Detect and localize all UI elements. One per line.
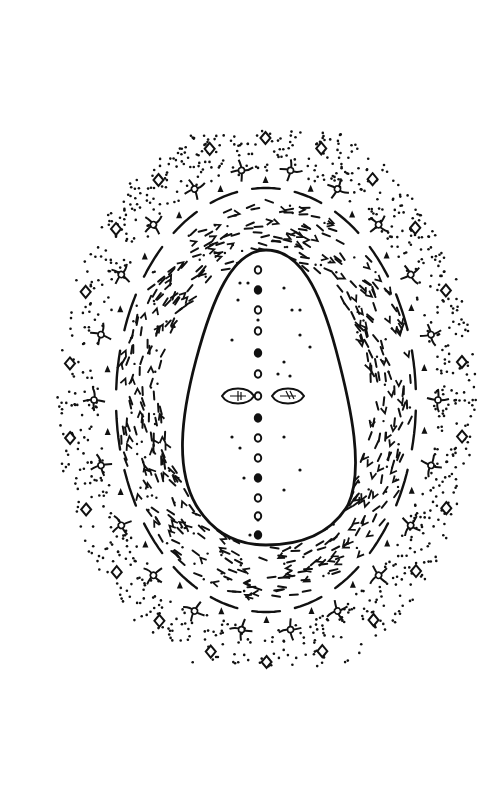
diamond-icon xyxy=(441,284,451,296)
diamond-icon xyxy=(368,173,378,185)
star-cross-icon xyxy=(417,321,445,350)
arrowhead-icon xyxy=(142,252,148,259)
arrowhead-icon xyxy=(409,487,415,494)
star-cross-icon xyxy=(83,388,105,411)
diamond-icon xyxy=(153,174,163,186)
arrowhead-icon xyxy=(309,607,315,614)
star-cross-icon xyxy=(362,560,394,592)
diamond-icon xyxy=(441,502,451,514)
arrowhead-icon xyxy=(117,305,123,312)
diamond-icon xyxy=(369,614,379,626)
diamond-icon xyxy=(112,566,122,578)
arrowhead-icon xyxy=(176,211,182,218)
star-cross-icon xyxy=(87,451,115,479)
leaf-eye-left xyxy=(222,389,254,404)
arrowhead-icon xyxy=(263,176,269,183)
arrowhead-icon xyxy=(408,304,414,311)
arrowhead-icon xyxy=(308,185,314,192)
arrowhead-icon xyxy=(177,581,183,588)
diamond-icon xyxy=(154,615,164,627)
diamond-icon xyxy=(411,565,421,577)
arrowhead-icon xyxy=(421,427,427,434)
inner-seed-outline xyxy=(182,250,355,545)
star-cross-icon xyxy=(228,617,254,642)
diamond-icon xyxy=(457,431,467,443)
star-cross-icon xyxy=(180,174,210,204)
arrowhead-icon xyxy=(350,581,356,588)
arrowhead-icon xyxy=(218,607,224,614)
star-cross-icon xyxy=(137,559,169,591)
star-cross-icon xyxy=(179,596,209,625)
arrowhead-icon xyxy=(217,185,223,192)
artwork-canvas xyxy=(0,0,492,786)
arrowhead-icon xyxy=(105,365,111,372)
star-cross-icon xyxy=(278,158,304,183)
diamond-icon xyxy=(81,286,91,298)
arrowhead-icon xyxy=(384,251,390,258)
diamond-icon xyxy=(111,223,121,235)
star-cross-icon xyxy=(229,157,255,183)
diamond-icon xyxy=(81,504,91,516)
star-cross-icon xyxy=(277,617,303,642)
arrowhead-icon xyxy=(105,428,111,435)
leaf-eye-right xyxy=(272,389,304,404)
diamond-icon xyxy=(262,656,272,668)
star-cross-icon xyxy=(138,208,170,240)
arrowhead-icon xyxy=(384,540,390,547)
arrowhead-icon xyxy=(118,488,124,495)
star-cross-icon xyxy=(322,596,352,626)
diamond-icon xyxy=(410,222,420,234)
arrowhead-icon xyxy=(421,364,427,371)
star-cross-icon xyxy=(395,259,426,290)
diamond-icon xyxy=(317,645,327,657)
arrowhead-icon xyxy=(263,616,269,623)
star-cross-icon xyxy=(88,320,115,348)
mandala-illustration xyxy=(0,0,492,786)
arrowhead-icon xyxy=(349,211,355,218)
diamond-icon xyxy=(457,356,467,368)
star-cross-icon xyxy=(417,452,444,480)
arrowhead-icon xyxy=(142,541,148,548)
